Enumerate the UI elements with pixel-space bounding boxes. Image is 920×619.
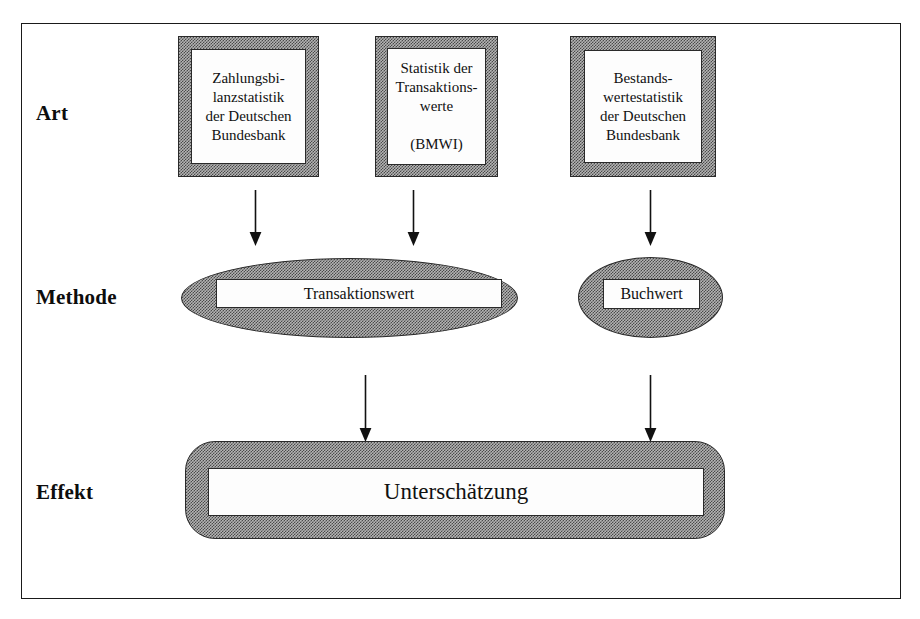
- source-box-bestandswertestatistik: Bestands- wertestatistik der Deutschen B…: [570, 36, 716, 177]
- source-box-label: Zahlungsbi- lanzstatistik der Deutschen …: [205, 69, 291, 145]
- method-ellipse-inner: Buchwert: [603, 279, 700, 309]
- diagram-canvas: Art Methode Effekt Zahlungsbi- lanzstati…: [0, 0, 920, 619]
- arrow-transaktionswert-to-unterschaetzung: [357, 375, 374, 443]
- source-box-inner: Bestands- wertestatistik der Deutschen B…: [584, 50, 702, 163]
- effect-shape-unterschaetzung: Unterschätzung: [185, 441, 725, 539]
- source-box-label: Statistik der Transaktions- werte (BMWI): [396, 59, 478, 154]
- arrow-buchwert-to-unterschaetzung: [642, 375, 659, 443]
- source-box-inner: Zahlungsbi- lanzstatistik der Deutschen …: [191, 49, 306, 164]
- arrow-bestandswerte-to-buchwert: [642, 190, 659, 247]
- method-ellipse-transaktionswert: Transaktionswert: [181, 258, 518, 338]
- arrow-zahlungsbilanz-to-transaktionswert: [247, 190, 264, 247]
- method-ellipse-label: Buchwert: [620, 285, 682, 303]
- arrow-transaktionswerte-to-transaktionswert: [405, 190, 422, 247]
- source-box-inner: Statistik der Transaktions- werte (BMWI): [387, 48, 486, 165]
- method-ellipse-buchwert: Buchwert: [578, 257, 723, 338]
- effect-shape-label: Unterschätzung: [384, 479, 528, 505]
- row-label-methode: Methode: [36, 285, 117, 310]
- method-ellipse-inner: Transaktionswert: [216, 279, 502, 308]
- method-ellipse-label: Transaktionswert: [304, 285, 415, 303]
- row-label-effekt: Effekt: [36, 480, 93, 505]
- source-box-statistik-der-transaktionswerte: Statistik der Transaktions- werte (BMWI): [375, 36, 498, 177]
- source-box-label: Bestands- wertestatistik der Deutschen B…: [600, 69, 686, 145]
- effect-shape-inner: Unterschätzung: [208, 468, 704, 516]
- source-box-zahlungsbilanzstatistik: Zahlungsbi- lanzstatistik der Deutschen …: [178, 36, 319, 177]
- row-label-art: Art: [36, 101, 68, 126]
